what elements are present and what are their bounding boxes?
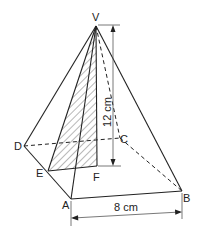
pyramid-diagram: 12 cm 8 cm V D C E F A B [0,0,216,235]
edge-cb [120,138,182,191]
label-a: A [62,199,70,211]
height-dimension [98,25,121,166]
arrow-down-icon [111,159,116,166]
height-label: 12 cm [101,97,113,127]
label-f: F [93,171,100,183]
label-v: V [92,11,100,23]
arrow-right-icon [175,210,182,215]
label-b: B [183,192,190,204]
edge-ab [71,191,182,199]
label-e: E [36,167,43,179]
label-c: C [120,133,128,145]
label-d: D [14,140,22,152]
base-edge-label: 8 cm [114,201,138,213]
arrow-up-icon [111,25,116,32]
arrow-left-icon [71,215,78,220]
